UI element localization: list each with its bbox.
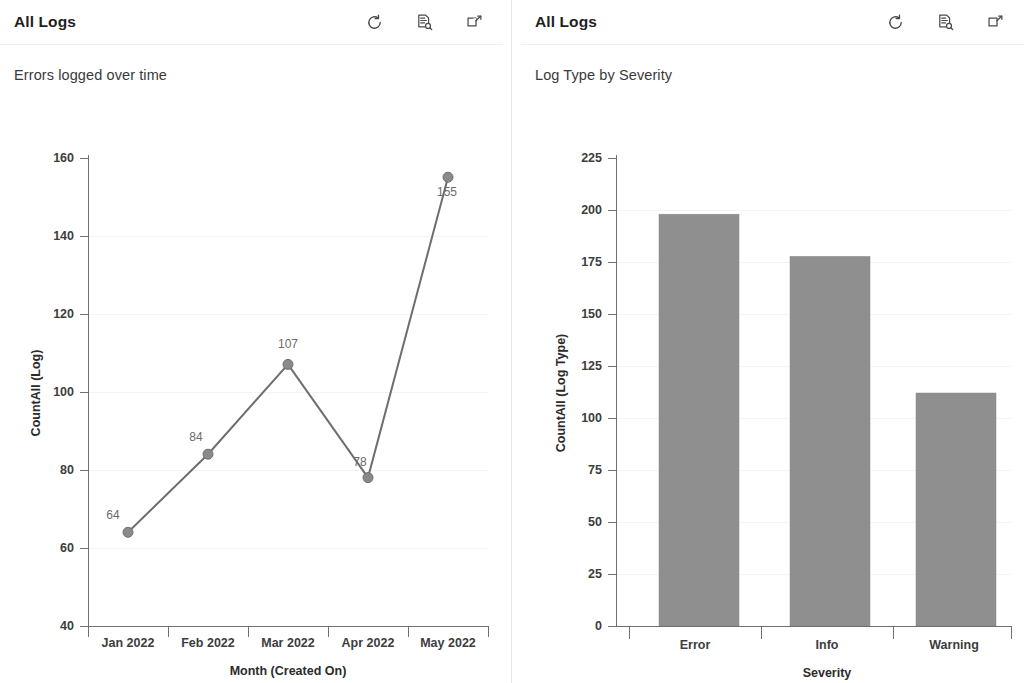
ytick-140: 140 (53, 229, 74, 243)
xtick-apr: Apr 2022 (342, 636, 395, 650)
ytick-150: 150 (581, 307, 602, 321)
ytick-40: 40 (60, 619, 74, 633)
xtick-jan: Jan 2022 (102, 636, 155, 650)
ytick-100: 100 (53, 385, 74, 399)
dashboard: All Logs (0, 0, 1024, 683)
chart-title-left: Errors logged over time (0, 45, 503, 83)
gridlines (88, 236, 488, 626)
chart-title-right: Log Type by Severity (521, 45, 1024, 83)
y-axis-title-left: CountAll (Log) (29, 350, 43, 437)
xtick-warning: Warning (929, 638, 979, 652)
ytick-75: 75 (588, 463, 602, 477)
y-axis-title-right: CountAll (Log Type) (554, 334, 568, 453)
ytick-50: 50 (588, 515, 602, 529)
bar-chart: 225 200 175 150 125 100 75 50 25 0 Count… (521, 83, 1024, 683)
ytick-200: 200 (581, 203, 602, 217)
x-axis-title-right: Severity (803, 666, 852, 680)
bar-series (659, 214, 996, 626)
card-title-right: All Logs (535, 13, 597, 31)
ytick-100: 100 (581, 411, 602, 425)
data-point[interactable] (283, 359, 293, 369)
view-records-icon[interactable] (413, 11, 435, 33)
xtick-info: Info (816, 638, 839, 652)
ytick-225: 225 (581, 151, 602, 165)
expand-icon[interactable] (984, 11, 1006, 33)
ytick-80: 80 (60, 463, 74, 477)
header-actions-right (884, 11, 1006, 33)
ytick-175: 175 (581, 255, 602, 269)
data-point[interactable] (123, 527, 133, 537)
ytick-120: 120 (53, 307, 74, 321)
card-title-left: All Logs (14, 13, 76, 31)
y-axis-right: 225 200 175 150 125 100 75 50 25 0 Count… (554, 151, 616, 633)
ytick-60: 60 (60, 541, 74, 555)
x-axis-left: Jan 2022 Feb 2022 Mar 2022 Apr 2022 May … (88, 626, 488, 678)
ytick-125: 125 (581, 359, 602, 373)
point-label-may: 155 (437, 185, 457, 199)
bar-info[interactable] (790, 256, 870, 626)
refresh-icon[interactable] (884, 11, 906, 33)
ytick-25: 25 (588, 567, 602, 581)
refresh-icon[interactable] (363, 11, 385, 33)
point-label-apr: 78 (353, 455, 367, 469)
card-header-left: All Logs (0, 0, 503, 45)
view-records-icon[interactable] (934, 11, 956, 33)
point-label-mar: 107 (278, 337, 298, 351)
panel-divider (503, 0, 521, 683)
line-chart: 160 140 120 100 80 60 40 CountAll (Log) (0, 83, 503, 683)
point-label-jan: 64 (106, 508, 120, 522)
x-axis-right: Error Info Warning Severity (616, 626, 1011, 680)
bar-error[interactable] (659, 214, 739, 626)
point-label-feb: 84 (189, 430, 203, 444)
xtick-mar: Mar 2022 (261, 636, 315, 650)
x-axis-title-left: Month (Created On) (230, 664, 347, 678)
y-axis-left: 160 140 120 100 80 60 40 CountAll (Log) (29, 151, 88, 633)
xtick-error: Error (680, 638, 711, 652)
header-actions-left (363, 11, 485, 33)
panel-log-type-by-severity: All Logs (521, 0, 1024, 683)
card-header-right: All Logs (521, 0, 1024, 45)
expand-icon[interactable] (463, 11, 485, 33)
xtick-may: May 2022 (420, 636, 476, 650)
data-point[interactable] (443, 172, 453, 182)
bar-warning[interactable] (916, 393, 996, 626)
xtick-feb: Feb 2022 (181, 636, 235, 650)
data-point[interactable] (203, 449, 213, 459)
data-point[interactable] (363, 473, 373, 483)
panel-errors-over-time: All Logs (0, 0, 503, 683)
ytick-160: 160 (53, 151, 74, 165)
line-series (123, 172, 453, 537)
ytick-0: 0 (595, 619, 602, 633)
